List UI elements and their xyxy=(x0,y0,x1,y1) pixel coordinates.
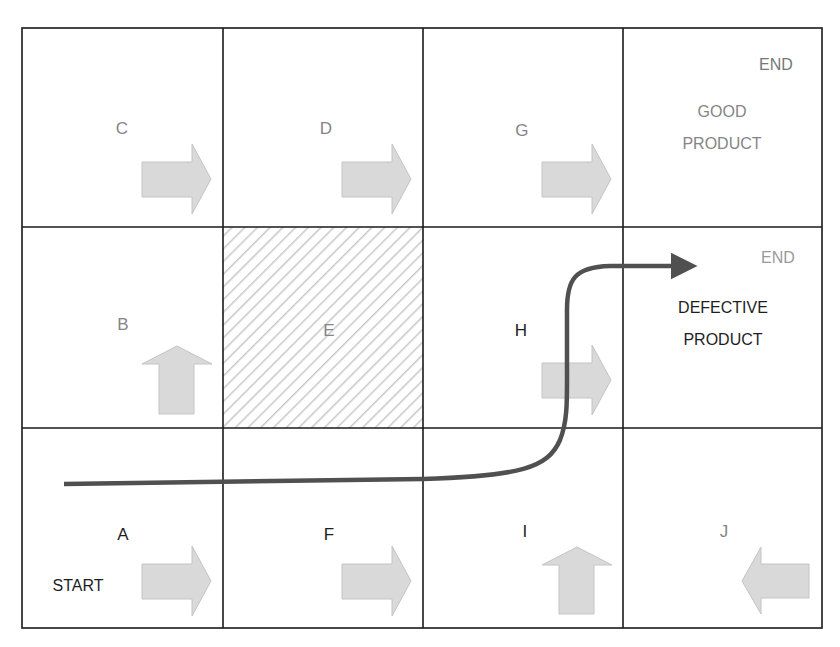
end-label-defective: END xyxy=(761,250,795,266)
cell-label-e: E xyxy=(323,322,335,339)
cell-label-j: J xyxy=(720,523,729,540)
right-arrow-icon-f xyxy=(342,546,411,616)
cell-label-c: C xyxy=(116,120,128,137)
right-arrow-icon-g xyxy=(542,144,611,214)
cell-label-d: D xyxy=(320,120,332,137)
defective-product-line2: PRODUCT xyxy=(678,324,768,356)
cell-label-h: H xyxy=(515,322,527,339)
start-label: START xyxy=(53,578,104,594)
right-arrow-icon-c xyxy=(142,144,211,214)
good-product-line2: PRODUCT xyxy=(682,128,761,160)
cell-label-i: I xyxy=(523,523,528,540)
good-product-label: GOOD PRODUCT xyxy=(682,96,761,160)
up-arrow-icon-b xyxy=(142,346,212,414)
cell-label-f: F xyxy=(324,526,335,543)
cell-label-b: B xyxy=(117,316,129,333)
cell-label-g: G xyxy=(515,122,528,139)
right-arrow-icon-a xyxy=(142,546,211,616)
end-label-good: END xyxy=(759,57,793,73)
right-arrow-icon-d xyxy=(342,144,411,214)
good-product-line1: GOOD xyxy=(682,96,761,128)
defective-product-line1: DEFECTIVE xyxy=(678,292,768,324)
left-arrow-icon-j xyxy=(742,547,809,614)
right-arrow-icon-h xyxy=(542,345,611,415)
up-arrow-icon-i xyxy=(542,547,612,614)
flow-grid-diagram: C D G B E H A F I J START END GOOD PRODU… xyxy=(0,0,840,647)
defective-product-label: DEFECTIVE PRODUCT xyxy=(678,292,768,356)
cell-label-a: A xyxy=(117,526,129,543)
